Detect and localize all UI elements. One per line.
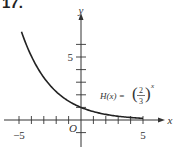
x-axis-arrow-icon bbox=[158, 118, 165, 123]
function-label: H(x) =(23)x bbox=[99, 82, 155, 106]
svg-text:H(x) =: H(x) = bbox=[99, 91, 125, 101]
y-axis-label: y bbox=[78, 4, 84, 16]
origin-label: O bbox=[69, 122, 77, 134]
x-axis-label: x bbox=[167, 114, 173, 126]
svg-text:x: x bbox=[150, 82, 155, 90]
x-tick-label: 5 bbox=[140, 129, 146, 141]
svg-text:): ) bbox=[145, 84, 151, 103]
function-graph: −555xyOH(x) =(23)x bbox=[0, 0, 175, 151]
svg-text:2: 2 bbox=[139, 86, 143, 95]
x-tick-label: −5 bbox=[13, 129, 25, 141]
svg-text:(: ( bbox=[132, 84, 138, 103]
y-tick-label: 5 bbox=[68, 51, 74, 63]
svg-text:3: 3 bbox=[139, 97, 143, 106]
axes bbox=[4, 13, 165, 147]
